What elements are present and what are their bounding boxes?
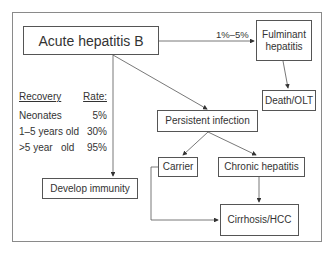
recovery-group: >5 year old <box>19 142 74 153</box>
node-chronic-hepatitis: Chronic hepatitis <box>218 157 305 177</box>
recovery-row: Neonates 5% <box>19 110 107 121</box>
rate-header-label: Rate: <box>83 91 107 102</box>
node-carrier: Carrier <box>158 157 198 177</box>
node-develop-immunity: Develop immunity <box>42 178 138 199</box>
recovery-rate: 95% <box>87 142 107 153</box>
recovery-group: Neonates <box>19 110 62 121</box>
node-fulminant-hepatitis: Fulminant hepatitis <box>256 20 312 61</box>
node-persistent-infection: Persistent infection <box>157 110 258 132</box>
node-acute-hepatitis-b: Acute hepatitis B <box>23 26 159 55</box>
recovery-table-header: Recovery Rate: <box>19 91 107 102</box>
recovery-rate: 30% <box>87 126 107 137</box>
node-cirrhosis-hcc: Cirrhosis/HCC <box>220 204 299 236</box>
recovery-group: 1–5 years old <box>19 126 79 137</box>
recovery-header-label: Recovery <box>19 91 61 102</box>
recovery-row: 1–5 years old 30% <box>19 126 107 137</box>
node-death-olt: Death/OLT <box>262 90 316 111</box>
edge-label-fulminant-rate: 1%–5% <box>216 29 249 40</box>
recovery-rate: 5% <box>93 110 107 121</box>
recovery-row: >5 year old 95% <box>19 142 107 153</box>
